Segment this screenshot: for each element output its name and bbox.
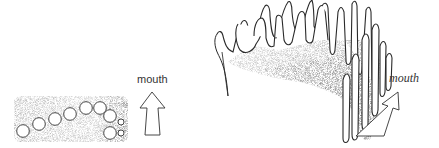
mouth-direction-arrow-up-icon [140,92,165,135]
mouth-label-left: mouth [137,73,168,85]
diagram-canvas [0,0,439,148]
comb-plate-perspective [215,0,392,143]
tooth-row-top-view [14,96,128,142]
mouth-label-right: mouth [389,71,419,86]
